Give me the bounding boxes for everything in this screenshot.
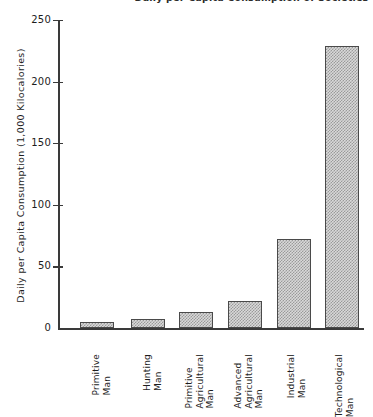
- plot-area: 250 200 150 100 50 0 Primitive Man Hunti…: [58, 20, 364, 328]
- y-tick-mark-100: [53, 205, 63, 206]
- y-tick-label-250: 250: [7, 14, 51, 25]
- y-tick-mark-50: [53, 266, 63, 267]
- x-tick-label-hunting-man: Hunting Man: [142, 354, 156, 391]
- x-tick-label-industrial-man: Industrial Man: [286, 354, 308, 398]
- y-tick-label-200: 200: [7, 76, 51, 87]
- x-axis-line: [58, 328, 364, 330]
- x-tick-label-primitive-man: Primitive Man: [91, 354, 105, 395]
- y-tick-label-150: 150: [7, 137, 51, 148]
- bar-hunting-man: [131, 319, 165, 328]
- y-tick-label-0: 0: [7, 322, 51, 333]
- x-tick-label-advanced-agricultural-man: Advanced Agricultural Man: [233, 354, 265, 409]
- bar-advanced-agricultural-man: [228, 301, 262, 328]
- x-tick-label-technological-man: Technological Man: [334, 354, 356, 417]
- y-axis-line: [58, 20, 60, 329]
- y-axis-title: Daily per Capita Consumption (1,000 Kilo…: [15, 21, 26, 331]
- bar-technological-man: [325, 46, 359, 328]
- y-tick-label-50: 50: [7, 260, 51, 271]
- y-tick-label-100: 100: [7, 199, 51, 210]
- y-tick-mark-250: [53, 20, 63, 21]
- bar-primitive-man: [80, 322, 114, 328]
- y-tick-mark-200: [53, 82, 63, 83]
- chart-title: Daily per Capita Consumption of Societie…: [130, 0, 373, 3]
- y-tick-mark-150: [53, 143, 63, 144]
- bar-primitive-agricultural-man: [179, 312, 213, 328]
- x-tick-label-primitive-agricultural-man: Primitive Agricultural Man: [184, 354, 216, 409]
- bar-industrial-man: [277, 239, 311, 328]
